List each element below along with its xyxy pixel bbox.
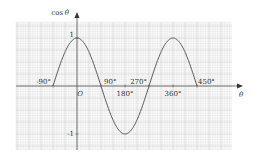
origin-label: O xyxy=(77,90,83,98)
tick-label-90: 90° xyxy=(104,78,116,86)
y-axis-theta: θ xyxy=(65,9,70,17)
tick-label-y1: 1 xyxy=(70,31,74,39)
tick-label-neg90: -90° xyxy=(36,78,51,86)
y-axis-label: cos xyxy=(51,9,63,17)
tick-label-450: 450° xyxy=(198,78,215,86)
x-axis-label: θ xyxy=(239,91,244,99)
tick-label-360: 360° xyxy=(165,90,182,98)
tick-label-yneg1: -1 xyxy=(67,130,74,138)
cosine-chart: cos θθO-90°90°180°270°360°450°1-1 xyxy=(0,0,254,158)
tick-label-180: 180° xyxy=(117,90,134,98)
tick-label-270: 270° xyxy=(130,78,147,86)
